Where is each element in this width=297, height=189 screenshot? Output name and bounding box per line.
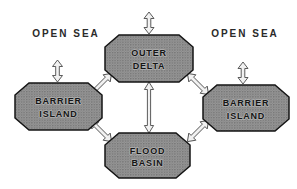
coastal-environments-diagram: OPEN SEA OPEN SEA [0,0,297,189]
node-barrier-island-left-label-line2: ISLAND [39,109,77,119]
node-flood-basin-label-line1: FLOOD [130,146,166,156]
node-barrier-island-right-label-line2: ISLAND [227,111,265,121]
arrow-barrier-island-right-open-sea [238,62,248,84]
node-flood-basin: FLOOD BASIN [105,133,190,178]
node-flood-basin-shape [105,133,190,178]
node-barrier-island-right: BARRIER ISLAND [203,85,289,131]
node-outer-delta-shape [105,35,193,82]
node-outer-delta-label-line1: OUTER [131,48,167,58]
open-sea-label-right: OPEN SEA [211,28,279,39]
open-sea-label-left: OPEN SEA [32,28,100,39]
node-barrier-island-left-shape [15,83,102,130]
node-barrier-island-left-label-line1: BARRIER [35,96,82,106]
node-barrier-island-right-label-line1: BARRIER [223,98,270,108]
arrow-outer-delta-open-sea [144,12,154,34]
node-flood-basin-label-line2: BASIN [131,158,163,168]
node-barrier-island-left: BARRIER ISLAND [15,83,102,130]
node-barrier-island-right-shape [203,85,289,131]
diagram-page: OPEN SEA OPEN SEA [0,0,297,189]
node-outer-delta-label-line2: DELTA [133,61,166,71]
arrow-outer-delta-flood-basin [144,82,153,133]
arrow-barrier-island-left-open-sea [53,60,63,82]
node-outer-delta: OUTER DELTA [105,35,193,82]
